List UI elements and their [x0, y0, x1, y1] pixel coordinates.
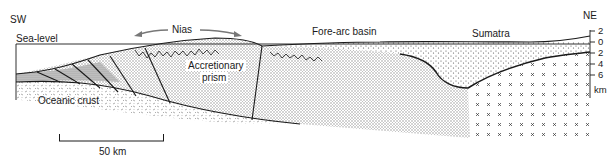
- oceanic-crust-label: Oceanic crust: [38, 95, 99, 106]
- depth-tick-2: 2: [598, 47, 603, 58]
- depth-tick-6: 6: [598, 69, 603, 80]
- arrow-head-left: [134, 31, 142, 37]
- depth-tick-4: 4: [598, 58, 603, 69]
- sea-level-label: Sea-level: [16, 33, 58, 44]
- fore-arc-basin-label: Fore-arc basin: [312, 26, 376, 37]
- scale-bar-label: 50 km: [99, 146, 126, 157]
- sumatra-label: Sumatra: [472, 28, 510, 39]
- cross-section-figure: [0, 0, 607, 164]
- direction-ne: NE: [583, 10, 597, 21]
- depth-tick-2-above: 2: [598, 25, 603, 36]
- accretionary-prism-label-1: Accretionary: [186, 60, 246, 71]
- nias-label: Nias: [172, 24, 192, 35]
- scale-bar: [59, 134, 164, 141]
- accretionary-prism-label-2: prism: [200, 72, 228, 83]
- arrow-head-right: [234, 31, 242, 37]
- direction-sw: SW: [10, 14, 26, 25]
- depth-unit: km: [594, 84, 607, 95]
- depth-tick-0: 0: [598, 36, 603, 47]
